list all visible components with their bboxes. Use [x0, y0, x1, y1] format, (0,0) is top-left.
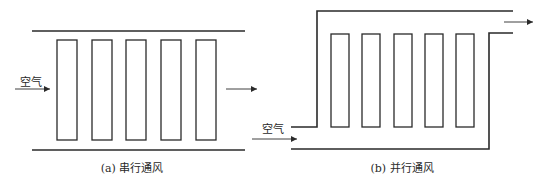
series-caption: (a) 串行通风	[101, 163, 164, 174]
parallel-lower-duct	[291, 33, 513, 149]
parallel-channel-2	[362, 34, 380, 127]
series-ventilation-diagram	[15, 31, 257, 150]
parallel-upper-duct	[291, 11, 513, 127]
series-channel-1	[57, 40, 77, 140]
parallel-channel-3	[394, 34, 412, 127]
parallel-channel-1	[331, 34, 349, 127]
parallel-channel-5	[456, 34, 474, 127]
series-channel-2	[92, 40, 112, 140]
series-channel-5	[196, 40, 216, 140]
parallel-inlet-label: 空气	[262, 124, 284, 135]
parallel-channel-4	[425, 34, 443, 127]
ventilation-diagrams	[0, 0, 544, 187]
series-channel-4	[161, 40, 181, 140]
parallel-ventilation-diagram	[252, 11, 533, 149]
parallel-caption: (b) 并行通风	[370, 163, 433, 174]
series-inlet-label: 空气	[20, 77, 42, 88]
series-channel-3	[126, 40, 146, 140]
